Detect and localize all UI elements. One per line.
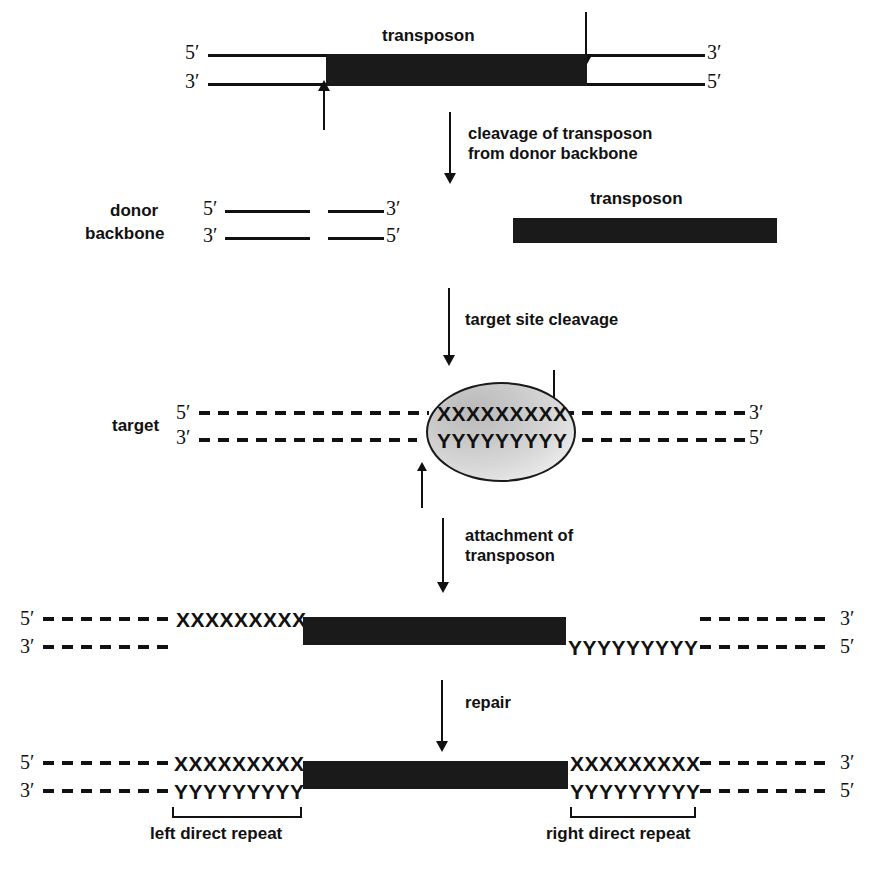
attached-left-5prime-label: 5′	[20, 607, 34, 630]
target-bottom-cut-arrow	[421, 470, 423, 508]
target-bottom-sequence: YYYYYYYYY	[437, 430, 568, 451]
step-target-cleavage-label: target site cleavage	[465, 310, 618, 329]
attached-right-3prime-label: 3′	[840, 607, 854, 630]
target-top-strand-left	[199, 411, 429, 415]
free-transposon-label: transposon	[590, 189, 683, 209]
step-cleavage-label-line2: from donor backbone	[468, 144, 638, 163]
right-direct-repeat-label: right direct repeat	[546, 824, 691, 844]
donor-left-3prime-label: 3′	[185, 70, 199, 93]
donor-backbone-label-line1: donor	[110, 201, 158, 221]
panel-donor-molecule: transposon 5′ 3′ 3′ 5′	[0, 0, 878, 125]
target-right-3prime-label: 3′	[749, 401, 763, 424]
backbone-top-strand-right	[328, 210, 384, 213]
backbone-bottom-strand-right	[328, 237, 384, 240]
target-left-3prime-label: 3′	[176, 426, 190, 449]
free-transposon-box	[513, 218, 777, 243]
donor-right-5prime-label: 5′	[707, 70, 721, 93]
figure-canvas: transposon 5′ 3′ 3′ 5′ cleavage of trans…	[0, 0, 878, 870]
repaired-bottom-strand-left	[43, 789, 174, 793]
right-direct-repeat-bracket	[570, 807, 696, 818]
attached-bottom-strand-left	[43, 645, 176, 649]
attached-top-strand-left	[43, 617, 176, 621]
repaired-left-3prime-label: 3′	[20, 779, 34, 802]
backbone-left-3prime-label: 3′	[203, 224, 217, 247]
target-label: target	[112, 416, 159, 436]
attached-bottom-strand-right	[700, 645, 833, 649]
step-target-cleavage-arrow	[448, 288, 450, 356]
step-cleavage-from-donor: cleavage of transposon from donor backbo…	[0, 112, 878, 182]
repaired-left-bottom-sequence: YYYYYYYYY	[174, 781, 305, 802]
backbone-right-5prime-label: 5′	[386, 224, 400, 247]
step-attachment-arrow	[442, 518, 444, 583]
donor-right-3prime-label: 3′	[707, 41, 721, 64]
target-top-strand-right	[563, 411, 747, 415]
repaired-right-bottom-sequence: YYYYYYYYY	[570, 781, 701, 802]
donor-transposon-label: transposon	[382, 26, 475, 46]
left-direct-repeat-bracket	[172, 807, 302, 818]
target-right-5prime-label: 5′	[749, 426, 763, 449]
attached-left-top-sequence: XXXXXXXXX	[176, 609, 307, 630]
repaired-right-3prime-label: 3′	[840, 751, 854, 774]
donor-top-strand-right	[585, 54, 705, 57]
donor-bottom-strand-left	[208, 83, 328, 86]
target-bottom-strand-right	[563, 438, 747, 442]
donor-left-5prime-label: 5′	[185, 41, 199, 64]
repaired-left-5prime-label: 5′	[20, 751, 34, 774]
panel-target-site: target 5′ 3′ 3′ 5′ XXXXXXXXX YYYYYYYYY	[0, 370, 878, 510]
panel-transposon-attached: 5′ 3′ 3′ 5′ XXXXXXXXX YYYYYYYYY	[0, 595, 878, 675]
repaired-top-strand-left	[43, 761, 174, 765]
target-top-sequence: XXXXXXXXX	[437, 403, 568, 424]
attached-transposon-box	[303, 617, 566, 645]
step-attachment-label-line2: transposon	[465, 546, 555, 565]
repaired-left-top-sequence: XXXXXXXXX	[174, 753, 305, 774]
target-bottom-strand-left	[199, 438, 417, 442]
backbone-bottom-strand-left	[225, 237, 310, 240]
panel-repaired-product: 5′ 3′ 3′ 5′ XXXXXXXXX YYYYYYYYY XXXXXXXX…	[0, 735, 878, 870]
step-cleavage-label-line1: cleavage of transposon	[468, 124, 652, 143]
step-repair-arrow	[441, 680, 443, 742]
donor-transposon-box	[326, 54, 587, 86]
target-left-5prime-label: 5′	[176, 401, 190, 424]
donor-right-cut-arrow	[585, 12, 587, 56]
repaired-right-5prime-label: 5′	[840, 779, 854, 802]
donor-backbone-label-line2: backbone	[85, 224, 164, 244]
step-attachment-of-transposon: attachment of transposon	[0, 510, 878, 590]
donor-bottom-strand-right	[585, 83, 705, 86]
attached-right-5prime-label: 5′	[840, 635, 854, 658]
backbone-right-3prime-label: 3′	[386, 197, 400, 220]
donor-top-strand-left	[208, 54, 328, 57]
backbone-top-strand-left	[225, 210, 310, 213]
step-repair-label: repair	[465, 693, 511, 712]
step-cleavage-arrow	[449, 112, 451, 174]
repaired-right-top-sequence: XXXXXXXXX	[570, 753, 701, 774]
left-direct-repeat-label: left direct repeat	[150, 824, 282, 844]
attached-right-bottom-sequence: YYYYYYYYY	[568, 637, 699, 658]
repaired-top-strand-right	[700, 761, 833, 765]
repaired-bottom-strand-right	[700, 789, 833, 793]
step-target-site-cleavage: target site cleavage	[0, 288, 878, 368]
panel-cleaved-products: donor backbone 5′ 3′ 3′ 5′ transposon	[0, 185, 878, 265]
attached-top-strand-right	[700, 617, 833, 621]
attached-left-3prime-label: 3′	[20, 635, 34, 658]
repaired-transposon-box	[303, 761, 568, 789]
step-attachment-label-line1: attachment of	[465, 526, 573, 545]
backbone-left-5prime-label: 5′	[203, 197, 217, 220]
